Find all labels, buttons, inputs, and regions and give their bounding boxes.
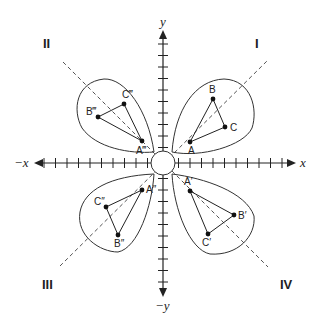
arrow-right-icon <box>287 159 296 167</box>
arrow-left-icon <box>34 159 43 167</box>
vertex-point <box>188 140 193 145</box>
vertex-label: A <box>188 145 195 156</box>
vertex-point <box>223 125 228 130</box>
triangle-outline <box>106 190 142 235</box>
vertex-point <box>140 139 145 144</box>
quadrant-label-iii: III <box>42 277 53 292</box>
y-axis-label: y <box>158 14 166 29</box>
neg-x-axis-label: −x <box>14 155 29 170</box>
vertex-point <box>211 97 216 102</box>
quadrant-label-ii: II <box>43 36 50 51</box>
x-axis-label: x <box>299 155 306 170</box>
vertex-point <box>116 233 121 238</box>
triangle-outline <box>98 104 142 141</box>
vertex-label: B′ <box>238 210 247 221</box>
vertex-label: A′ <box>184 176 193 187</box>
vertex-label: B‴ <box>86 106 97 117</box>
vertex-label: B <box>209 84 216 95</box>
coordinate-plane-diagram: ABCA‴B‴C‴A″B″C″A′B′C′ x −x y −y I II III… <box>0 0 326 324</box>
triangle-outline <box>190 99 225 142</box>
quadrant-label-iv: IV <box>280 277 293 292</box>
quadrant-iv-triangle: A′B′C′ <box>184 176 247 248</box>
origin-circle <box>151 151 175 175</box>
quadrant-label-i: I <box>255 36 259 51</box>
vertex-label: C‴ <box>122 89 133 100</box>
neg-y-axis-label: −y <box>155 298 170 313</box>
vertex-label: A″ <box>146 184 157 195</box>
vertex-label: B″ <box>114 238 125 249</box>
vertex-label: A‴ <box>136 145 147 156</box>
arrow-down-icon <box>159 288 167 297</box>
arrow-up-icon <box>159 30 167 39</box>
vertex-label: C <box>230 122 237 133</box>
quadrant-ii-triangle: A‴B‴C‴ <box>86 89 147 156</box>
vertex-point <box>140 188 145 193</box>
vertex-point <box>188 189 193 194</box>
vertex-point <box>232 213 237 218</box>
vertex-label: C″ <box>94 196 105 207</box>
triangle-outline <box>190 191 234 234</box>
vertex-point <box>122 102 127 107</box>
vertex-point <box>96 115 101 120</box>
vertex-point <box>206 232 211 237</box>
quadrant-iii-triangle: A″B″C″ <box>94 184 157 249</box>
vertex-label: C′ <box>202 237 211 248</box>
